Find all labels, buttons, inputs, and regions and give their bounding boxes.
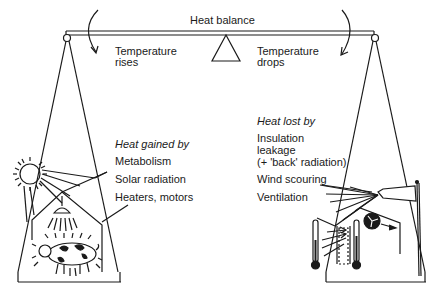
thermometer-outside-icon [312,220,320,269]
loss-item-leakage: leakage [257,144,296,156]
thermometer-inside-icon [353,220,361,269]
loss-item-ventilation: Ventilation [257,191,308,203]
gain-item-heaters: Heaters, motors [115,191,193,203]
fulcrum-triangle [212,35,240,61]
balance-beam [66,31,374,35]
gain-item-metabolism: Metabolism [115,155,171,167]
left-effect-line2: rises [115,56,138,68]
title-label: Heat balance [190,14,255,26]
wind-leader-line [322,185,372,192]
gain-item-solar: Solar radiation [115,173,186,185]
loss-item-back-radiation: (+ 'back' radiation) [257,156,347,168]
loss-item-wind: Wind scouring [257,173,327,185]
right-curved-arrow-icon [341,10,350,55]
pig-icon [32,233,102,276]
left-pivot-icon [64,35,71,42]
right-pivot-icon [372,35,379,42]
heat-gained-heading: Heat gained by [115,138,189,150]
heat-lost-heading: Heat lost by [257,115,315,127]
loss-item-insulation: Insulation [257,132,304,144]
right-effect-line2: drops [257,56,285,68]
diagram-drawing [0,0,436,295]
heat-balance-diagram: Heat balance Temperature rises Temperatu… [0,0,436,295]
